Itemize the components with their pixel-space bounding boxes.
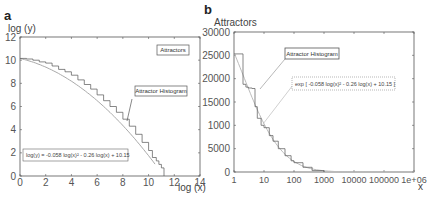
fit-line-a [20, 58, 155, 164]
fit-line-b [234, 53, 414, 172]
y-tick-label-b: 25000 [202, 50, 230, 61]
x-tick-label-a: 12 [169, 177, 181, 188]
x-tick-label-b: 1e+06 [401, 175, 426, 185]
y-tick-label-b: 15000 [202, 97, 230, 108]
y-tick-label-b: 30000 [202, 27, 230, 38]
x-tick-label-a: 0 [17, 177, 23, 188]
y-tick-label-b: 0 [224, 167, 230, 178]
y-tick-label-a: 8 [10, 78, 16, 89]
annotation-histogram-label-a: Attractor Histogram [135, 88, 187, 94]
panel-label-a: a [4, 8, 12, 23]
x-tick-label-a: 10 [143, 177, 155, 188]
y-tick-label-a: 0 [10, 171, 16, 182]
x-tick-label-b: 1000 [314, 175, 334, 185]
x-tick-label-a: 6 [94, 177, 100, 188]
x-tick-label-a: 14 [194, 177, 206, 188]
y-tick-label-a: 4 [10, 124, 16, 135]
y-tick-label-b: 5000 [208, 143, 231, 154]
panel-a: a log (y) log (x) 024681012 02468101214 … [4, 8, 206, 193]
panel-label-b: b [204, 2, 212, 17]
x-tick-label-b: 10000 [341, 175, 366, 185]
formula-label-a: log(y) = -0.058 log(x)² - 0.26 log(x) + … [26, 152, 130, 158]
x-tick-label-b: 1 [231, 175, 236, 185]
figure: a log (y) log (x) 024681012 02468101214 … [0, 0, 431, 203]
x-tick-label-a: 2 [43, 177, 49, 188]
x-tick-label-b: 100000 [369, 175, 399, 185]
annotation-formula-b: exp [ -0.058 log(x)² - 0.26 log(x) + 10.… [263, 77, 396, 124]
y-tick-label-b: 20000 [202, 73, 230, 84]
x-tick-label-a: 8 [120, 177, 126, 188]
y-tick-label-a: 10 [5, 55, 17, 66]
y-tick-label-a: 12 [5, 32, 17, 43]
x-tick-label-a: 4 [69, 177, 75, 188]
legend-a: Attractors [157, 45, 191, 57]
y-tick-label-a: 2 [10, 147, 16, 158]
annotation-formula-a: log(y) = -0.058 log(x)² - 0.26 log(x) + … [23, 149, 130, 161]
formula-label-b: exp [ -0.058 log(x)² - 0.26 log(x) + 10.… [295, 81, 396, 87]
x-tick-label-b: 10 [259, 175, 269, 185]
annotation-histogram-a: Attractor Histogram [127, 86, 187, 121]
panel-b: b Attractors x 0500010001500020000250003… [202, 2, 426, 192]
histogram-line-b [234, 54, 324, 172]
annotation-histogram-label-b: Attractor Histogram [286, 51, 338, 57]
x-tick-label-b: 100 [286, 175, 301, 185]
y-tick-label-a: 6 [10, 101, 16, 112]
y-tick-label-b: 1000 [208, 120, 231, 131]
legend-label-a: Attractors [160, 47, 186, 53]
